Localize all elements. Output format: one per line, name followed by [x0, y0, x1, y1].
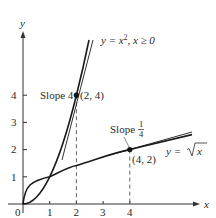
x-axis-arrow-icon: [193, 202, 200, 207]
point-2-4: [74, 93, 79, 98]
point-2-4-label: (2, 4): [80, 89, 104, 102]
y-axis-arrow-icon: [21, 31, 26, 38]
x-tick-0: 0: [15, 206, 21, 218]
sqrt-label: y =: [165, 145, 181, 157]
slope-4-label: Slope 4: [40, 89, 74, 101]
y-tick-4: 4: [11, 89, 17, 101]
point-4-2: [127, 147, 132, 152]
x-axis-label: x: [203, 198, 209, 210]
y-tick-1: 1: [11, 171, 17, 183]
parabola-curve: [23, 40, 89, 204]
slope-quarter-numerator: 1: [139, 119, 143, 129]
slope-quarter-denominator: 4: [139, 129, 144, 139]
x-tick-2: 2: [74, 206, 80, 218]
parabola-label: y = x2, x ≥ 0: [100, 33, 155, 46]
graph: x y 0 1 2 3 4 1 2 3 4 Slope 4 (2, 4) Slo…: [0, 0, 216, 218]
y-tick-3: 3: [11, 116, 17, 128]
x-tick-1: 1: [47, 206, 53, 218]
x-tick-3: 3: [100, 206, 106, 218]
point-4-2-label: (4, 2): [132, 153, 156, 166]
sqrt-radicand: x: [196, 145, 202, 157]
y-ticks: [23, 95, 27, 177]
slope-quarter-pointer: [124, 137, 129, 147]
y-axis-label: y: [19, 17, 25, 29]
x-tick-4: 4: [127, 206, 133, 218]
y-tick-2: 2: [11, 143, 17, 155]
slope-quarter-label: Slope: [110, 123, 135, 135]
